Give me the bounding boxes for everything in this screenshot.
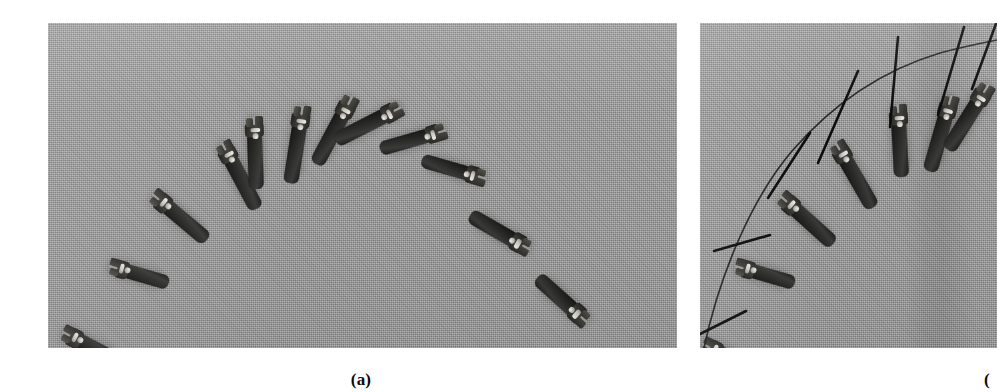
panel-b-shading bbox=[700, 23, 997, 348]
figure-container: (a) ( bbox=[0, 0, 997, 392]
figure-panel-a bbox=[48, 23, 677, 348]
panel-a-shading bbox=[48, 23, 677, 348]
panel-b-caption: ( bbox=[984, 370, 997, 390]
figure-panel-b bbox=[700, 23, 997, 348]
panel-a-caption: (a) bbox=[336, 370, 386, 390]
